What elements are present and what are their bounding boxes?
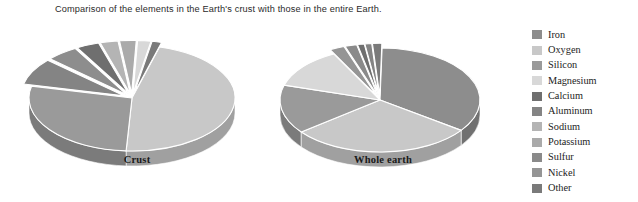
whole-earth-pie-svg	[258, 22, 508, 172]
legend-item-label: Sodium	[548, 122, 580, 132]
legend-item: Oxygen	[532, 42, 632, 57]
legend-item-label: Calcium	[548, 91, 583, 101]
legend: IronOxygenSiliconMagnesiumCalciumAluminu…	[532, 27, 632, 196]
legend-item: Nickel	[532, 165, 632, 180]
legend-item-label: Silicon	[548, 60, 577, 70]
legend-swatch-icon	[532, 168, 542, 177]
legend-swatch-icon	[532, 30, 542, 39]
legend-item: Sodium	[532, 119, 632, 134]
legend-item: Silicon	[532, 58, 632, 73]
legend-item-label: Other	[548, 183, 571, 193]
legend-swatch-icon	[532, 76, 542, 85]
legend-item: Sulfur	[532, 150, 632, 165]
legend-item: Iron	[532, 27, 632, 42]
whole-earth-pie-chart: Whole earth	[258, 22, 508, 172]
legend-swatch-icon	[532, 61, 542, 70]
crust-pie-chart: Crust	[12, 22, 262, 172]
legend-item: Calcium	[532, 88, 632, 103]
legend-swatch-icon	[532, 92, 542, 101]
legend-swatch-icon	[532, 122, 542, 131]
legend-swatch-icon	[532, 184, 542, 193]
figure-caption: Comparison of the elements in the Earth'…	[55, 4, 382, 14]
legend-swatch-icon	[532, 46, 542, 55]
legend-item-label: Oxygen	[548, 45, 581, 55]
whole-earth-chart-label: Whole earth	[258, 154, 508, 165]
crust-pie-svg	[12, 22, 262, 172]
legend-item-label: Sulfur	[548, 152, 574, 162]
legend-swatch-icon	[532, 138, 542, 147]
legend-item: Potassium	[532, 134, 632, 149]
legend-item-label: Aluminum	[548, 106, 593, 116]
legend-item-label: Iron	[548, 30, 565, 40]
legend-item-label: Nickel	[548, 168, 575, 178]
crust-chart-label: Crust	[12, 154, 262, 165]
legend-item: Magnesium	[532, 73, 632, 88]
figure-container: Comparison of the elements in the Earth'…	[0, 0, 638, 202]
legend-item-label: Magnesium	[548, 76, 597, 86]
legend-item: Aluminum	[532, 104, 632, 119]
legend-item: Other	[532, 180, 632, 195]
legend-item-label: Potassium	[548, 137, 590, 147]
legend-swatch-icon	[532, 107, 542, 116]
legend-swatch-icon	[532, 153, 542, 162]
